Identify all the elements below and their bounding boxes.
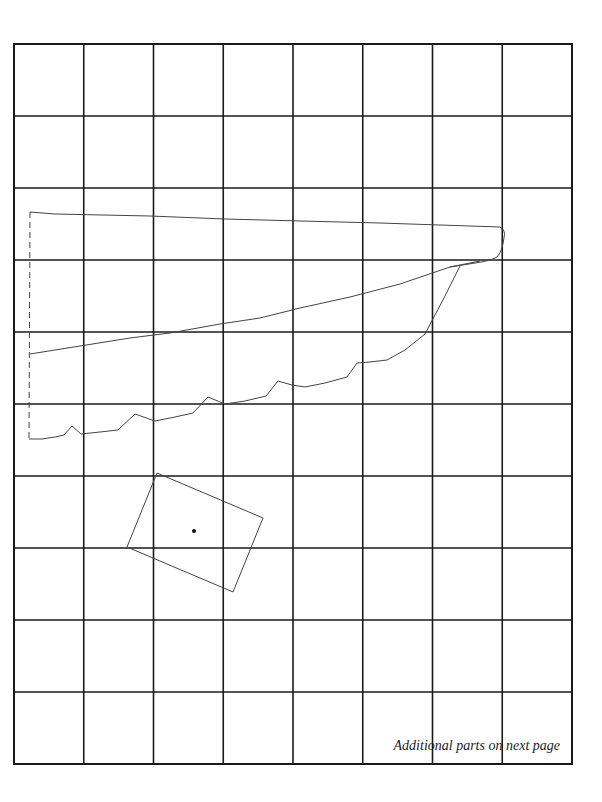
grid bbox=[14, 44, 572, 764]
footnote-text: Additional parts on next page bbox=[394, 738, 560, 754]
wing-diagonal-edge bbox=[30, 261, 480, 354]
square-piece bbox=[127, 473, 263, 592]
wing-top-edge bbox=[30, 212, 505, 267]
wing-scalloped-edge bbox=[29, 266, 460, 439]
fold-line bbox=[29, 212, 30, 439]
center-dot-marker bbox=[192, 529, 196, 533]
pattern-grid-canvas bbox=[0, 0, 602, 802]
